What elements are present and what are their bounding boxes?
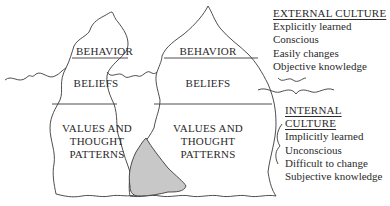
right-values-line2: THOUGHT [163, 135, 253, 148]
external-item: Conscious [273, 33, 386, 46]
right-beliefs-label: BELIEFS [182, 77, 234, 90]
internal-item: Unconscious [285, 144, 390, 157]
left-values-line2: THOUGHT [52, 135, 142, 148]
right-behavior-label: BEHAVIOR [176, 45, 240, 58]
left-behavior-label: BEHAVIOR [76, 45, 128, 58]
internal-item: Difficult to change [285, 157, 390, 170]
external-item: Objective knowledge [273, 60, 386, 73]
internal-bracket [276, 124, 282, 164]
internal-culture-title: INTERNAL CULTURE [285, 104, 390, 130]
internal-culture-legend: INTERNAL CULTURE Implicitly learned Unco… [285, 104, 390, 183]
right-values-label: VALUES AND THOUGHT PATTERNS [163, 122, 253, 161]
left-values-line3: PATTERNS [52, 148, 142, 161]
left-values-label: VALUES AND THOUGHT PATTERNS [52, 122, 142, 161]
external-item: Easily changes [273, 47, 386, 60]
left-values-line1: VALUES AND [52, 122, 142, 135]
right-values-line1: VALUES AND [163, 122, 253, 135]
external-culture-legend: EXTERNAL CULTURE Explicitly learned Cons… [273, 7, 386, 73]
right-values-line3: PATTERNS [163, 148, 253, 161]
water-line-right [278, 78, 306, 81]
external-item: Explicitly learned [273, 20, 386, 33]
internal-item: Subjective knowledge [285, 170, 390, 183]
left-beliefs-label: BELIEFS [70, 77, 122, 90]
internal-item: Implicitly learned [285, 130, 390, 143]
external-brace [258, 89, 334, 94]
water-line-left [5, 68, 66, 80]
external-culture-title: EXTERNAL CULTURE [273, 7, 386, 20]
